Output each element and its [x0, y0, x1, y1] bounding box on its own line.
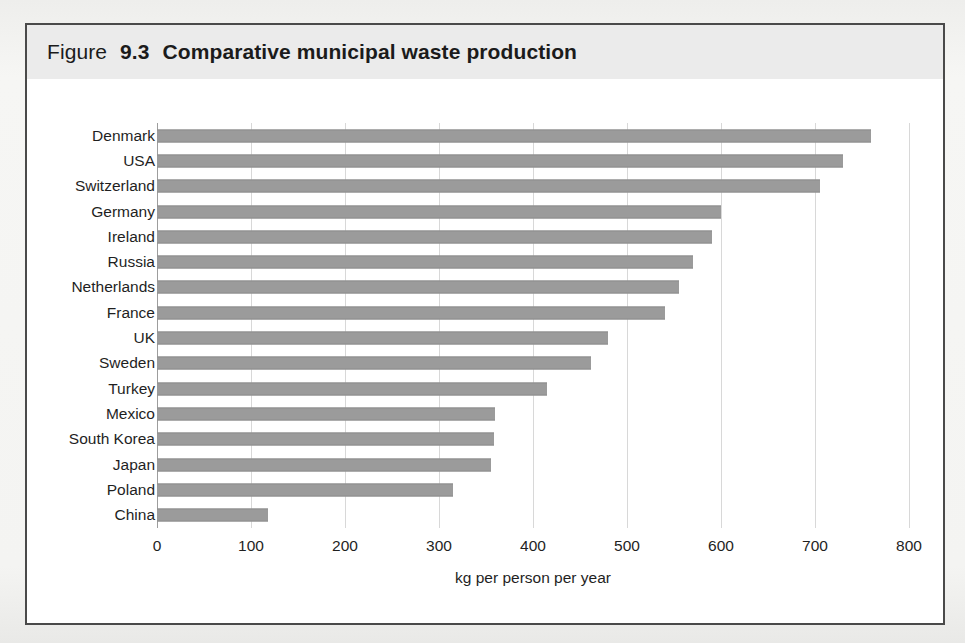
bar-netherlands — [157, 281, 679, 294]
category-label-south-korea: South Korea — [69, 430, 155, 448]
x-tick-label-0: 0 — [153, 537, 162, 555]
bar-row: Germany — [27, 199, 943, 224]
figure-title-text: Comparative municipal waste production — [163, 40, 578, 63]
bar-row: USA — [27, 148, 943, 173]
bar-row: Ireland — [27, 224, 943, 249]
chart-area: DenmarkUSASwitzerlandGermanyIrelandRussi… — [27, 79, 943, 623]
bar-row: South Korea — [27, 427, 943, 452]
x-tick-label-800: 800 — [896, 537, 922, 555]
category-label-switzerland: Switzerland — [75, 177, 155, 195]
page-title: Figure 9.3 Comparative municipal waste p… — [47, 40, 577, 64]
page-background: Figure 9.3 Comparative municipal waste p… — [0, 0, 965, 643]
category-label-sweden: Sweden — [99, 354, 155, 372]
bar-japan — [157, 458, 491, 471]
bar-france — [157, 306, 665, 319]
bar-row: Turkey — [27, 376, 943, 401]
category-label-mexico: Mexico — [106, 405, 155, 423]
bar-row: Japan — [27, 452, 943, 477]
category-label-uk: UK — [133, 329, 155, 347]
bar-row: Switzerland — [27, 174, 943, 199]
category-label-ireland: Ireland — [108, 228, 155, 246]
category-label-china: China — [115, 506, 156, 524]
category-label-russia: Russia — [108, 253, 155, 271]
category-label-poland: Poland — [107, 481, 155, 499]
category-label-germany: Germany — [91, 203, 155, 221]
bar-row: Mexico — [27, 401, 943, 426]
figure-frame: Figure 9.3 Comparative municipal waste p… — [25, 23, 945, 625]
figure-number: 9.3 — [120, 40, 150, 63]
bar-row: Russia — [27, 250, 943, 275]
bar-denmark — [157, 129, 871, 142]
figure-title-lead: Figure — [47, 40, 107, 63]
bar-ireland — [157, 230, 712, 243]
bar-row: Poland — [27, 477, 943, 502]
category-label-denmark: Denmark — [92, 127, 155, 145]
bar-row: China — [27, 503, 943, 528]
bar-mexico — [157, 407, 495, 420]
bar-poland — [157, 483, 453, 496]
category-label-netherlands: Netherlands — [71, 278, 155, 296]
category-label-turkey: Turkey — [108, 380, 155, 398]
bar-russia — [157, 256, 693, 269]
bar-usa — [157, 154, 843, 167]
bar-sweden — [157, 357, 591, 370]
bar-uk — [157, 332, 608, 345]
bar-switzerland — [157, 180, 820, 193]
bar-row: UK — [27, 325, 943, 350]
bar-south-korea — [157, 433, 494, 446]
x-tick-label-500: 500 — [614, 537, 640, 555]
bar-row: Denmark — [27, 123, 943, 148]
bar-row: Netherlands — [27, 275, 943, 300]
x-tick-label-200: 200 — [332, 537, 358, 555]
x-tick-label-100: 100 — [238, 537, 264, 555]
figure-title-band: Figure 9.3 Comparative municipal waste p… — [27, 25, 943, 80]
x-axis-title: kg per person per year — [157, 569, 909, 587]
x-tick-label-300: 300 — [426, 537, 452, 555]
x-tick-label-700: 700 — [802, 537, 828, 555]
bar-china — [157, 509, 268, 522]
x-tick-label-600: 600 — [708, 537, 734, 555]
bar-chart-plot: DenmarkUSASwitzerlandGermanyIrelandRussi… — [27, 79, 943, 625]
category-label-usa: USA — [123, 152, 155, 170]
x-tick-label-400: 400 — [520, 537, 546, 555]
bar-germany — [157, 205, 721, 218]
bar-row: France — [27, 300, 943, 325]
category-label-france: France — [107, 304, 155, 322]
bar-row: Sweden — [27, 351, 943, 376]
bar-turkey — [157, 382, 547, 395]
category-label-japan: Japan — [113, 456, 155, 474]
